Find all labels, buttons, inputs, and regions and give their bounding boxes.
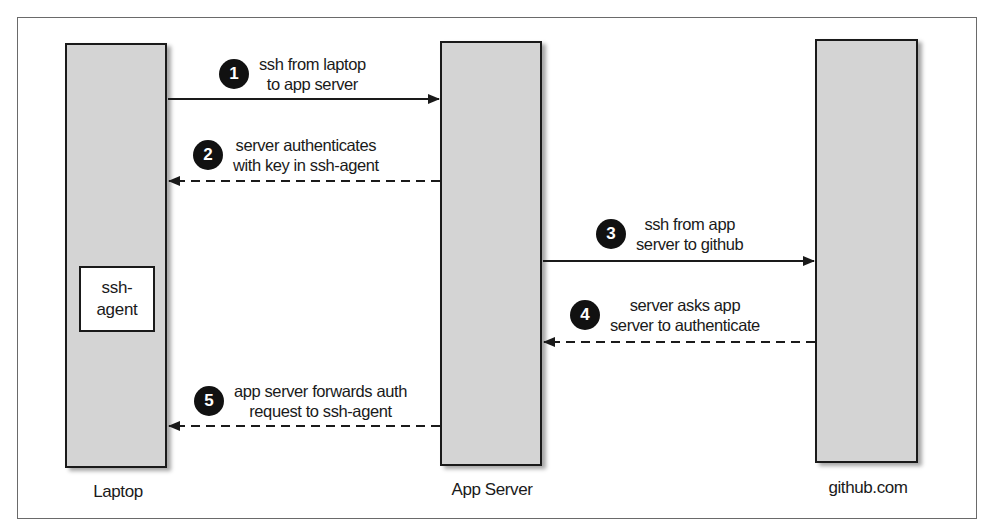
step-3-line1: ssh from app xyxy=(636,214,743,234)
step-2-annotation: 2 server authenticates with key in ssh-a… xyxy=(193,135,379,175)
step-2-badge: 2 xyxy=(193,140,223,170)
step-1-badge: 1 xyxy=(219,59,249,89)
step-4-badge: 4 xyxy=(570,300,600,330)
step-2-text: server authenticates with key in ssh-age… xyxy=(233,135,379,175)
step-2-line1: server authenticates xyxy=(233,135,379,155)
step-4-line2: server to authenticate xyxy=(610,315,760,335)
step-3-line2: server to github xyxy=(636,234,743,254)
step-1-text: ssh from laptop to app server xyxy=(259,54,366,94)
step-1-line1: ssh from laptop xyxy=(259,54,366,74)
app-server-label: App Server xyxy=(412,480,572,500)
step-4-line1: server asks app xyxy=(610,295,760,315)
step-2-line2: with key in ssh-agent xyxy=(233,155,379,175)
step-3-annotation: 3 ssh from app server to github xyxy=(596,214,743,254)
step-3-text: ssh from app server to github xyxy=(636,214,743,254)
step-1-annotation: 1 ssh from laptop to app server xyxy=(219,54,366,94)
arrows-layer xyxy=(0,0,1000,528)
github-label: github.com xyxy=(788,478,948,498)
step-3-badge: 3 xyxy=(596,219,626,249)
step-5-text: app server forwards auth request to ssh-… xyxy=(234,381,407,421)
step-5-line1: app server forwards auth xyxy=(234,381,407,401)
step-4-text: server asks app server to authenticate xyxy=(610,295,760,335)
step-5-annotation: 5 app server forwards auth request to ss… xyxy=(194,381,407,421)
step-5-badge: 5 xyxy=(194,386,224,416)
laptop-label: Laptop xyxy=(38,482,198,502)
step-4-annotation: 4 server asks app server to authenticate xyxy=(570,295,760,335)
step-1-line2: to app server xyxy=(259,74,366,94)
step-5-line2: request to ssh-agent xyxy=(234,401,407,421)
